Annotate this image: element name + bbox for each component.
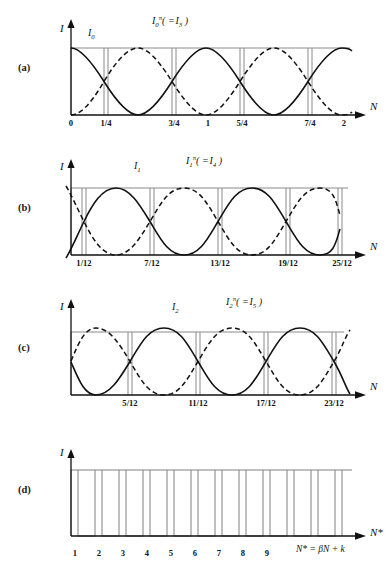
panel-a-tick-2: 3/4 (169, 118, 180, 128)
panel-a-curve-I0 (71, 48, 352, 115)
panel-d-tick-6: 7 (217, 548, 221, 558)
panel-d-x-arrowhead (355, 532, 366, 540)
panel-a: (a) I N I0 I0π( = I3 ) (0, 0, 392, 140)
panel-b-x-arrowhead (355, 251, 366, 259)
panel-a-x-arrowhead (355, 111, 366, 119)
panel-b-y-arrowhead (67, 159, 74, 168)
panel-d-tick-5: 6 (193, 548, 197, 558)
panel-d-pulse-comb (71, 470, 352, 536)
panel-a-axes (71, 26, 356, 115)
panel-c: (c) I N I2 I2π( = I5 ) (0, 280, 392, 420)
panel-c-tick-0: 5/12 (122, 398, 137, 408)
panel-c-x-arrowhead (355, 391, 366, 399)
interference-intensity-figure: (a) I N I0 I0π( = I3 ) (0, 0, 392, 575)
panel-b-tick-3: 19/12 (278, 258, 298, 268)
panel-d-plot (0, 436, 392, 556)
panel-d-tick-3: 4 (145, 548, 149, 558)
panel-d-tick-4: 5 (169, 548, 173, 558)
panel-c-plot (0, 290, 392, 410)
panel-c-gridlines (71, 332, 344, 395)
panel-d-formula: N* = βN + k (296, 544, 345, 554)
panel-b-tick-1: 7/12 (144, 258, 159, 268)
panel-d-tick-8: 9 (265, 548, 269, 558)
panel-b: (b) I N I1 I1π( = I4 ) (0, 140, 392, 280)
panel-b-axes (71, 166, 356, 255)
panel-b-curve-I1 (66, 188, 340, 258)
panel-a-tick-4: 5/4 (237, 118, 248, 128)
panel-d-y-arrowhead (67, 449, 74, 458)
panel-a-tick-5: 7/4 (305, 118, 316, 128)
panel-a-tick-0: 0 (69, 118, 73, 128)
panel-b-plot (0, 150, 392, 270)
panel-c-curve-I2-pi (71, 328, 350, 395)
panel-d: (d) I N* (0, 420, 392, 575)
panel-d-axes (71, 456, 356, 536)
panel-a-curve-I0-pi (71, 48, 352, 115)
panel-c-tick-3: 23/12 (324, 398, 344, 408)
panel-c-tick-1: 11/12 (188, 398, 207, 408)
panel-a-y-arrowhead (67, 19, 74, 28)
panel-b-tick-0: 1/12 (76, 258, 91, 268)
panel-d-tick-7: 8 (241, 548, 245, 558)
panel-c-y-arrowhead (67, 299, 74, 308)
panel-d-tick-1: 2 (97, 548, 101, 558)
panel-a-tick-6: 2 (342, 118, 346, 128)
panel-a-tick-1: 1/4 (101, 118, 112, 128)
panel-b-tick-4: 25/12 (332, 258, 352, 268)
panel-a-tick-3: 1 (206, 118, 210, 128)
panel-c-curve-I2 (71, 328, 350, 395)
panel-d-tick-2: 3 (121, 548, 125, 558)
panel-a-plot (0, 10, 392, 130)
panel-c-axes (71, 306, 356, 395)
panel-b-gridlines (71, 188, 348, 255)
panel-d-tick-0: 1 (73, 548, 77, 558)
panel-b-tick-2: 13/12 (210, 258, 230, 268)
panel-c-tick-2: 17/12 (256, 398, 276, 408)
